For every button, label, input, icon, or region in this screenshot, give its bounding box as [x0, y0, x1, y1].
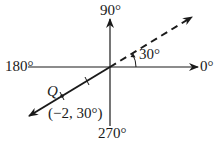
label-0-degrees: 0°	[200, 59, 214, 74]
point-q-marker	[60, 94, 64, 98]
polar-diagram: 0° 90° 180° 270° 30° Q (−2, 30°)	[0, 0, 221, 147]
point-q-label: Q	[47, 84, 58, 99]
label-180-degrees: 180°	[5, 59, 34, 74]
label-270-degrees: 270°	[98, 126, 127, 141]
label-90-degrees: 90°	[100, 3, 121, 18]
angle-label: 30°	[139, 47, 160, 62]
point-coordinates-label: (−2, 30°)	[48, 106, 102, 121]
